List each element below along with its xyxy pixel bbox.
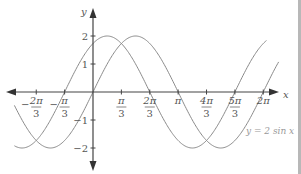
y-tick-label: −1 [73,115,88,126]
curve-label: y = 2 sin x [245,126,294,136]
x-tick-label: 4π [199,95,213,106]
y-tick-label: 1 [82,59,88,70]
x-tick-denominator: 3 [203,108,209,119]
x-tick-label: π [117,95,125,106]
y-axis-label: y [80,6,87,17]
x-tick-sign: − [21,99,29,110]
x-tick-label: 2π [256,95,270,106]
x-tick-label: 2π [142,95,156,106]
y-tick-label: −2 [73,143,88,154]
x-tick-denominator: 3 [118,108,124,119]
frame-border [298,0,301,174]
x-tick-denominator: 3 [33,108,39,119]
x-tick-label: π [174,95,182,106]
x-tick-denominator: 3 [147,108,153,119]
x-tick-label: 5π [228,95,241,106]
x-tick-sign: − [49,99,57,110]
x-tick-label: π [60,95,68,106]
x-tick-label: 2π [29,95,43,106]
x-axis-right-arrow-icon [269,89,279,96]
plot-area: −2π3−π3π32π3π4π35π32π21−1−2 x y y = 2 si… [0,0,301,174]
y-axis-down-arrow-icon [90,161,97,171]
sine-graph: −2π3−π3π32π3π4π35π32π21−1−2 x y y = 2 si… [0,0,301,174]
y-axis-up-arrow-icon [90,8,97,18]
x-axis-left-arrow-icon [6,89,16,96]
x-axis-label: x [283,89,289,100]
x-tick-denominator: 3 [61,108,67,119]
x-tick-denominator: 3 [232,108,238,119]
axes [6,8,279,171]
y-tick-label: 2 [82,31,88,42]
